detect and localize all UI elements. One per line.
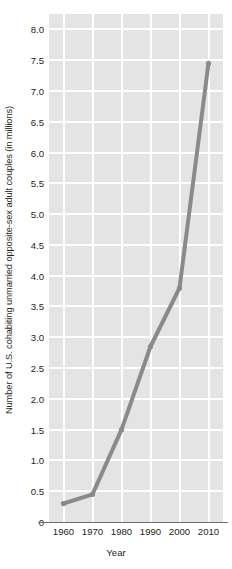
- y-axis-tick-label: 3.0: [31, 332, 44, 343]
- y-axis-tick-labels: 00.51.01.52.02.53.03.54.04.55.05.56.06.5…: [18, 14, 47, 522]
- y-axis-tick-label: 5.5: [31, 178, 44, 189]
- x-axis-tick-label: 1970: [82, 526, 103, 537]
- plot-area: [49, 14, 223, 522]
- y-axis-tick-label: 4.5: [31, 239, 44, 250]
- x-axis-tick-label: 1980: [111, 526, 132, 537]
- y-axis-tick-label: 2.0: [31, 393, 44, 404]
- y-axis-tick-label: 7.0: [31, 85, 44, 96]
- data-point: [119, 427, 124, 432]
- series-line: [64, 63, 209, 503]
- y-axis-tick-label: 8.0: [31, 24, 44, 35]
- series-line-layer: [49, 14, 223, 522]
- y-axis-tick-label: 1.5: [31, 424, 44, 435]
- x-axis-tick-label: 1990: [140, 526, 161, 537]
- y-axis-tick-label: 4.0: [31, 270, 44, 281]
- x-axis-tick-label: 2010: [198, 526, 219, 537]
- data-point: [206, 61, 211, 66]
- x-axis-tick-label: 1960: [53, 526, 74, 537]
- y-axis-title: Number of U.S. cohabiting unmarried oppo…: [0, 0, 18, 520]
- y-axis-tick-label: 2.5: [31, 363, 44, 374]
- line-chart-figure: Number of U.S. cohabiting unmarried oppo…: [0, 0, 232, 569]
- y-axis-tick-label: 7.5: [31, 55, 44, 66]
- y-axis-tick-label: 6.5: [31, 116, 44, 127]
- data-point: [148, 344, 153, 349]
- data-point: [90, 492, 95, 497]
- y-axis-tick-label: 6.0: [31, 147, 44, 158]
- x-axis-tick-label: 2000: [169, 526, 190, 537]
- y-axis-title-text: Number of U.S. cohabiting unmarried oppo…: [4, 106, 14, 414]
- x-axis-tick-labels: 196019701980199020002010: [0, 526, 232, 542]
- y-axis-tick-label: 1.0: [31, 455, 44, 466]
- data-point: [177, 285, 182, 290]
- y-axis-tick-label: 3.5: [31, 301, 44, 312]
- y-axis-tick-label: 5.0: [31, 209, 44, 220]
- x-axis-title: Year: [0, 547, 232, 558]
- x-axis-line: [38, 522, 228, 523]
- data-point: [61, 501, 66, 506]
- y-axis-tick-label: 0.5: [31, 486, 44, 497]
